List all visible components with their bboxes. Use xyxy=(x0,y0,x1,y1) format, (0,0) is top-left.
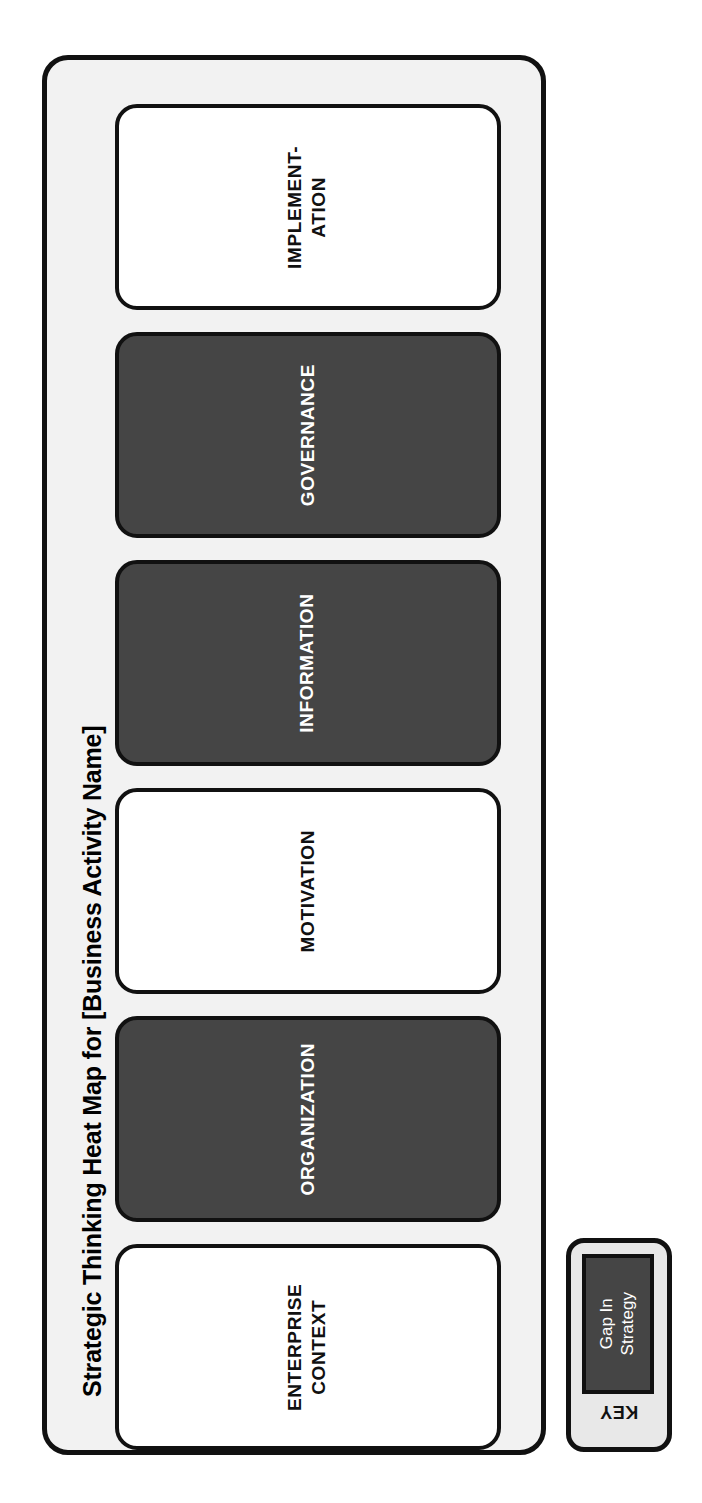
heat-map-card-label: ENTERPRISE CONTEXT xyxy=(284,1283,333,1410)
page-title: Strategic Thinking Heat Map for [Busines… xyxy=(70,85,114,1415)
key-title: KEY xyxy=(571,1401,667,1422)
heat-map-card[interactable]: MOTIVATION xyxy=(115,788,501,994)
heat-map-card-label: INFORMATION xyxy=(296,593,320,732)
heat-map-card[interactable]: INFORMATION xyxy=(115,560,501,766)
heat-map-card[interactable]: ORGANIZATION xyxy=(115,1016,501,1222)
heat-map-card[interactable]: IMPLEMENT- ATION xyxy=(115,104,501,310)
heat-map-card-label: MOTIVATION xyxy=(296,830,320,952)
heat-map-panel: Strategic Thinking Heat Map for [Busines… xyxy=(42,55,546,1455)
heat-map-card-label: ORGANIZATION xyxy=(296,1043,320,1196)
key-swatch-label: Gap In Strategy xyxy=(597,1292,638,1355)
heat-map-card[interactable]: ENTERPRISE CONTEXT xyxy=(115,1244,501,1450)
heat-map-card-column: IMPLEMENT- ATIONGOVERNANCEINFORMATIONMOT… xyxy=(115,82,501,1434)
key-swatch-gap-in-strategy: Gap In Strategy xyxy=(582,1254,654,1394)
heat-map-card-label: GOVERNANCE xyxy=(296,364,320,506)
heat-map-card[interactable]: GOVERNANCE xyxy=(115,332,501,538)
key-legend-panel: Gap In Strategy KEY xyxy=(566,1238,672,1452)
heat-map-card-label: IMPLEMENT- ATION xyxy=(284,145,333,268)
